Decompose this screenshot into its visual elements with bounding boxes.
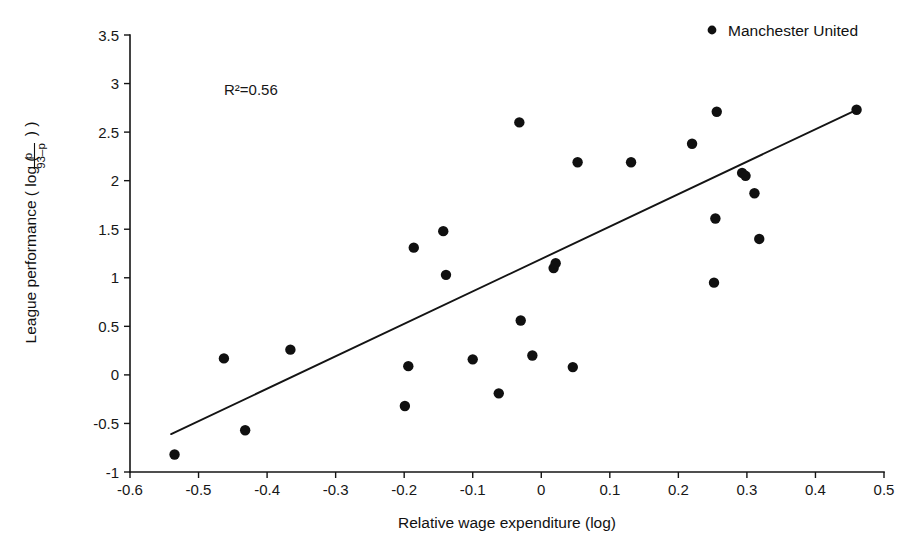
data-point [240, 425, 250, 435]
y-axis-ticks [124, 35, 130, 472]
data-point [710, 213, 720, 223]
data-point [441, 270, 451, 280]
x-tick-label: -0.6 [117, 481, 143, 498]
y-tick-label: 2 [111, 172, 119, 189]
scatter-plot: -0.6-0.5-0.4-0.3-0.2-0.100.10.20.30.40.5… [0, 0, 906, 545]
data-point [285, 344, 295, 354]
data-point [550, 258, 560, 268]
y-tick-label: 2.5 [98, 124, 119, 141]
legend-entry-manchester-united: Manchester United [728, 22, 858, 39]
legend: Manchester United [708, 22, 858, 39]
data-point [626, 157, 636, 167]
x-tick-label: 0.1 [599, 481, 620, 498]
data-point [709, 277, 719, 287]
y-tick-label: 1.5 [98, 221, 119, 238]
data-point [403, 361, 413, 371]
data-point [514, 117, 524, 127]
x-tick-label: -0.2 [391, 481, 417, 498]
y-tick-label: 0.5 [98, 318, 119, 335]
x-tick-label: 0 [537, 481, 545, 498]
data-point [851, 105, 861, 115]
x-tick-label: -0.3 [323, 481, 349, 498]
legend-marker-icon [708, 26, 717, 35]
x-tick-label: -0.4 [254, 481, 280, 498]
chart-figure: -0.6-0.5-0.4-0.3-0.2-0.100.10.20.30.40.5… [0, 0, 906, 545]
x-tick-label: 0.5 [874, 481, 895, 498]
data-point [754, 234, 764, 244]
data-point [400, 401, 410, 411]
y-axis-tick-labels: -1-0.500.511.522.533.5 [93, 27, 119, 481]
y-tick-label: -0.5 [93, 415, 119, 432]
data-point [468, 354, 478, 364]
data-point [749, 188, 759, 198]
data-point [516, 315, 526, 325]
y-axis-title: League performance ( log ( p 93–p ) ) [22, 122, 47, 344]
data-point [568, 362, 578, 372]
x-tick-label: 0.2 [668, 481, 689, 498]
data-point [169, 449, 179, 459]
trend-line [171, 110, 856, 434]
y-axis-title-prefix: League performance ( log ( [22, 156, 39, 344]
data-point [438, 226, 448, 236]
x-tick-label: 0.3 [736, 481, 757, 498]
r-squared-annotation: R²=0.56 [224, 81, 278, 98]
y-tick-label: -1 [106, 464, 119, 481]
fraction-denominator: 93–p [35, 143, 47, 169]
data-points [169, 105, 861, 460]
data-point [219, 353, 229, 363]
fraction-numerator: p [22, 153, 34, 159]
x-axis-tick-labels: -0.6-0.5-0.4-0.3-0.2-0.100.10.20.30.40.5 [117, 481, 894, 498]
data-point [740, 171, 750, 181]
data-point [409, 242, 419, 252]
data-point [572, 157, 582, 167]
x-tick-label: 0.4 [805, 481, 826, 498]
x-tick-label: -0.1 [460, 481, 486, 498]
x-tick-label: -0.5 [186, 481, 212, 498]
y-tick-label: 3 [111, 75, 119, 92]
y-axis-title-suffix: ) ) [22, 122, 39, 137]
x-axis-ticks [130, 472, 884, 478]
y-tick-label: 1 [111, 269, 119, 286]
data-point [494, 388, 504, 398]
data-point [712, 107, 722, 117]
data-point [687, 139, 697, 149]
y-tick-label: 0 [111, 366, 119, 383]
y-tick-label: 3.5 [98, 27, 119, 44]
data-point [527, 350, 537, 360]
x-axis-title: Relative wage expenditure (log) [398, 514, 616, 531]
